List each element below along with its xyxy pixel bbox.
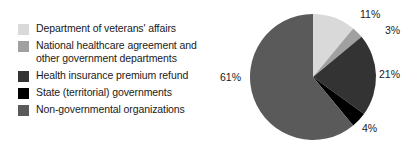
pie-slice-value-label: 3% bbox=[385, 24, 400, 36]
pie-chart-area: 11%3%21%4%61% bbox=[210, 0, 419, 149]
legend-swatch-icon bbox=[18, 88, 29, 99]
legend-item: Non-governmental organizations bbox=[18, 103, 213, 116]
legend-item-label: Non-governmental organizations bbox=[36, 103, 185, 116]
pie-slices bbox=[250, 14, 376, 140]
legend-swatch-icon bbox=[18, 71, 29, 82]
legend-swatch-icon bbox=[18, 105, 29, 116]
legend-item-label: Department of veterans' affairs bbox=[36, 22, 176, 35]
pie-slice-value-label: 11% bbox=[360, 8, 380, 20]
legend-item: State (territorial) governments bbox=[18, 86, 213, 99]
legend-item-label: State (territorial) governments bbox=[36, 86, 172, 99]
legend-swatch-icon bbox=[18, 41, 29, 52]
legend-item: Health insurance premium refund bbox=[18, 69, 213, 82]
chart-legend: Department of veterans' affairs National… bbox=[18, 22, 213, 120]
legend-swatch-icon bbox=[18, 24, 29, 35]
pie-slice-value-label: 21% bbox=[379, 68, 400, 80]
legend-item: Department of veterans' affairs bbox=[18, 22, 213, 35]
pie-chart-figure: Department of veterans' affairs National… bbox=[0, 0, 419, 149]
pie-slice-value-label: 4% bbox=[362, 122, 377, 134]
legend-item-label: National healthcare agreement and other … bbox=[36, 39, 197, 65]
legend-item: National healthcare agreement and other … bbox=[18, 39, 213, 65]
legend-item-label: Health insurance premium refund bbox=[36, 69, 188, 82]
pie-slice-value-label: 61% bbox=[220, 71, 241, 83]
